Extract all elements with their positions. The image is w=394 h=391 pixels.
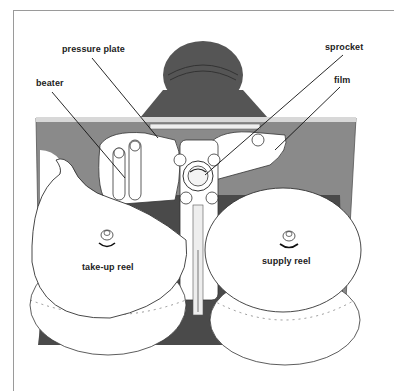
label-sprocket: sprocket [325, 42, 363, 52]
lens-barrel [140, 41, 268, 118]
film-leader [193, 205, 203, 315]
label-supply-reel: supply reel [262, 256, 311, 266]
label-film: film [334, 75, 350, 85]
sprocket [183, 161, 213, 191]
label-beater: beater [36, 78, 64, 88]
label-pressure-plate: pressure plate [62, 44, 125, 54]
label-take-up-reel: take-up reel [82, 262, 134, 272]
supply-reel [205, 188, 361, 365]
